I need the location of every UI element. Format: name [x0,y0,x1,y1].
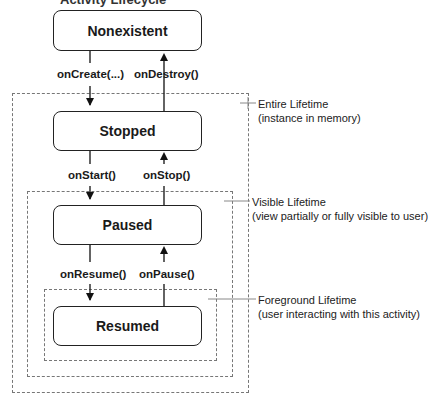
transition-on-destroy: onDestroy() [134,68,199,80]
state-label: Nonexistent [87,23,167,39]
transition-on-pause: onPause() [139,268,195,280]
transition-on-create: onCreate(...) [57,68,124,80]
foreground-lifetime-desc: (user interacting with this activity) [258,307,420,321]
transition-on-start: onStart() [68,169,116,181]
foreground-lifetime-note: Foreground Lifetime (user interacting wi… [258,293,420,321]
visible-lifetime-note: Visible Lifetime (view partially or full… [252,195,428,223]
visible-lifetime-desc: (view partially or fully visible to user… [252,209,428,223]
entire-lifetime-desc: (instance in memory) [258,111,361,125]
entire-lifetime-title: Entire Lifetime [258,97,361,111]
visible-lifetime-title: Visible Lifetime [252,195,428,209]
state-resumed: Resumed [53,306,202,346]
transition-on-resume: onResume() [60,268,126,280]
foreground-lifetime-title: Foreground Lifetime [258,293,420,307]
entire-lifetime-note: Entire Lifetime (instance in memory) [258,97,361,125]
transition-on-stop: onStop() [143,169,190,181]
state-paused: Paused [53,205,202,245]
state-label: Resumed [96,318,159,334]
state-nonexistent: Nonexistent [53,10,202,51]
state-stopped: Stopped [53,111,202,151]
state-label: Stopped [100,123,156,139]
state-label: Paused [103,217,153,233]
